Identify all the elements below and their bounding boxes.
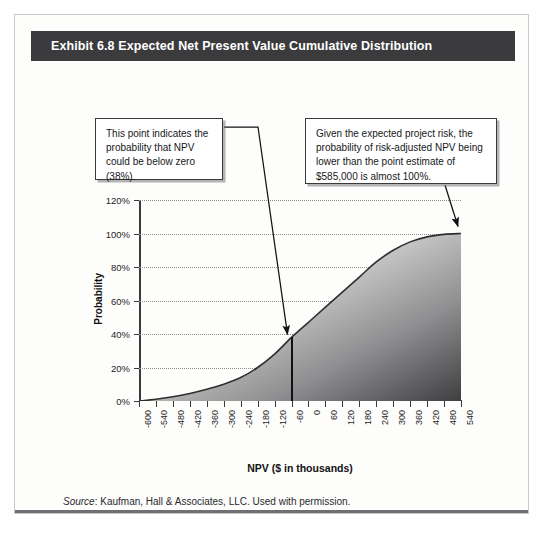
x-axis-tick [427, 400, 428, 407]
y-axis-tick-label: 60% [111, 295, 130, 306]
x-axis-tick [241, 400, 242, 407]
x-axis-tick [173, 400, 174, 407]
x-axis-tick [393, 400, 394, 407]
y-axis-tick-label: 20% [111, 362, 130, 373]
x-axis-tick [190, 400, 191, 407]
x-axis-tick-label: -360 [210, 410, 220, 428]
plot-area: 0%20%40%60%80%100%120% -600-540-480-420-… [139, 200, 461, 401]
x-axis-tick [207, 400, 208, 407]
x-axis-tick-label: 540 [465, 410, 475, 425]
callout-point-estimate: Given the expected project risk, the pro… [305, 118, 497, 184]
x-axis-tick-label: 240 [380, 410, 390, 425]
y-axis-tick-label: 80% [111, 262, 130, 273]
x-axis-tick [461, 400, 462, 407]
x-axis-tick [139, 400, 140, 407]
y-axis-tick-label: 100% [106, 228, 130, 239]
source-text: : Kaufman, Hall & Associates, LLC. Used … [95, 496, 351, 507]
y-axis-tick-label: 0% [116, 396, 130, 407]
x-axis-tick-label: 0 [312, 410, 322, 415]
x-axis-tick [376, 400, 377, 407]
x-axis-tick [359, 400, 360, 407]
x-axis-tick-label: 360 [414, 410, 424, 425]
x-axis-tick [292, 400, 293, 407]
x-axis-tick [410, 400, 411, 407]
x-axis-tick-label: -180 [261, 410, 271, 428]
y-axis-title: Probability [93, 273, 104, 325]
x-axis-tick-label: 420 [431, 410, 441, 425]
y-axis-tick-label: 40% [111, 329, 130, 340]
x-axis-tick-label: 120 [346, 410, 356, 425]
x-axis-tick-label: -300 [227, 410, 237, 428]
x-axis-tick-label: 480 [448, 410, 458, 425]
x-axis-tick-label: -420 [193, 410, 203, 428]
x-axis-tick [275, 400, 276, 407]
callout-below-zero: This point indicates the probability tha… [95, 118, 223, 180]
x-axis-tick [156, 400, 157, 407]
exhibit-page: Exhibit 6.8 Expected Net Present Value C… [14, 14, 529, 514]
x-axis-tick-label: -60 [295, 410, 305, 423]
x-axis-tick [258, 400, 259, 407]
x-axis-tick [308, 400, 309, 407]
x-axis-tick-label: 300 [397, 410, 407, 425]
x-axis-tick-label: -120 [278, 410, 288, 428]
x-axis-tick-label: -480 [176, 410, 186, 428]
y-axis-tick-label: 120% [106, 195, 130, 206]
x-axis-tick-label: 180 [363, 410, 373, 425]
x-axis-tick-label: -240 [244, 410, 254, 428]
cumulative-distribution-curve [139, 200, 461, 401]
x-axis-tick [444, 400, 445, 407]
below-zero-marker-line [291, 337, 293, 401]
x-axis-tick [342, 400, 343, 407]
x-axis-tick-label: -540 [159, 410, 169, 428]
area-fill [139, 234, 461, 402]
x-axis-title: NPV ($ in thousands) [139, 462, 461, 474]
x-axis-tick-label: -600 [143, 410, 153, 428]
x-axis-tick [325, 400, 326, 407]
source-label: Source [63, 496, 95, 507]
x-axis-tick [224, 400, 225, 407]
source-note: Source: Kaufman, Hall & Associates, LLC.… [63, 496, 350, 507]
x-axis-tick-label: 60 [329, 410, 339, 420]
chart-figure: Probability NPV ($ in thousands) 0%20%40… [15, 15, 529, 514]
